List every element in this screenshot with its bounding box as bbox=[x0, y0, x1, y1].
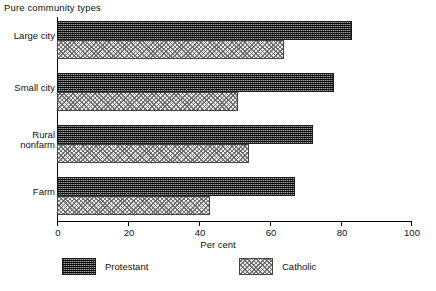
chart-canvas: Pure community types Large city Small ci… bbox=[0, 0, 436, 291]
bar-catholic-rural-nonfarm bbox=[57, 144, 249, 163]
legend-item-catholic: Catholic bbox=[239, 258, 316, 275]
x-tick-80 bbox=[341, 221, 342, 226]
x-tick-label-60: 60 bbox=[266, 227, 277, 238]
legend-item-protestant: Protestant bbox=[62, 258, 148, 275]
category-label-farm: Farm bbox=[33, 187, 55, 198]
chart-title: Pure community types bbox=[4, 2, 101, 13]
legend-label-catholic: Catholic bbox=[282, 261, 316, 272]
bar-protestant-farm bbox=[57, 177, 295, 196]
bar-catholic-farm bbox=[57, 196, 210, 215]
x-tick-100 bbox=[411, 221, 412, 226]
x-tick-0 bbox=[57, 221, 58, 226]
x-tick-40 bbox=[199, 221, 200, 226]
bar-catholic-small-city bbox=[57, 92, 238, 111]
bar-catholic-large-city bbox=[57, 40, 284, 59]
bar-protestant-large-city bbox=[57, 21, 352, 40]
x-tick-label-80: 80 bbox=[337, 227, 348, 238]
bar-protestant-small-city bbox=[57, 73, 334, 92]
x-tick-label-100: 100 bbox=[404, 227, 420, 238]
bar-protestant-rural-nonfarm bbox=[57, 125, 313, 144]
x-tick-label-40: 40 bbox=[195, 227, 206, 238]
legend-swatch-catholic-icon bbox=[239, 258, 273, 275]
x-tick-60 bbox=[270, 221, 271, 226]
x-tick-20 bbox=[128, 221, 129, 226]
x-axis-title: Per cent bbox=[0, 239, 436, 250]
x-axis-line bbox=[57, 221, 412, 222]
legend-label-protestant: Protestant bbox=[105, 261, 148, 272]
legend-swatch-protestant-icon bbox=[62, 258, 96, 275]
category-label-small-city: Small city bbox=[14, 83, 55, 94]
x-tick-label-20: 20 bbox=[124, 227, 135, 238]
x-tick-label-0: 0 bbox=[55, 227, 60, 238]
category-label-rural-nonfarm-line2: nonfarm bbox=[20, 140, 55, 151]
category-label-large-city: Large city bbox=[14, 31, 55, 42]
